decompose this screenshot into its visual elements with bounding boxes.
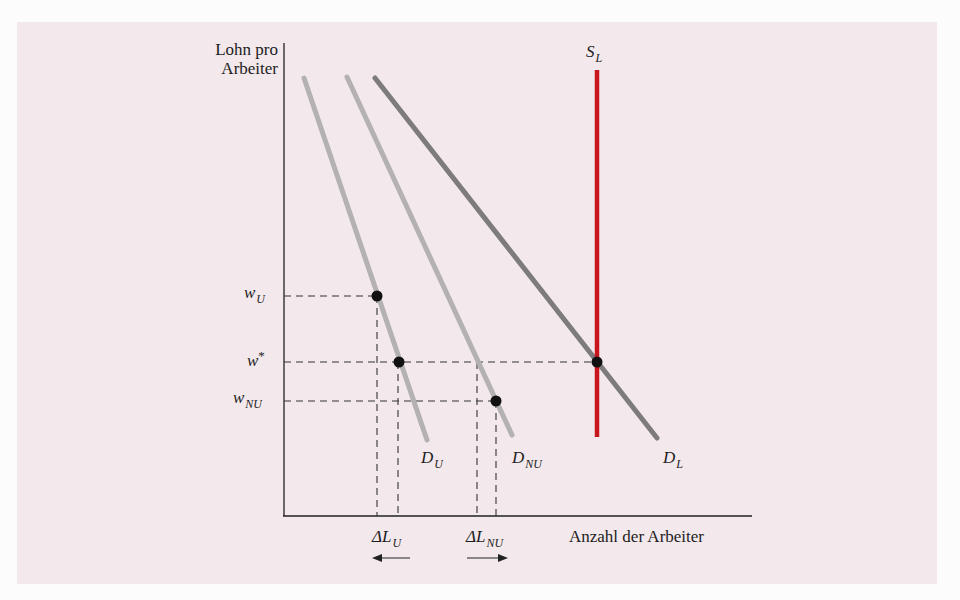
d-nu-label: DNU (512, 448, 542, 469)
d-l-label: DL (663, 448, 683, 469)
point-w-nu (491, 396, 502, 407)
dashed-guides (284, 296, 597, 516)
arrow-right-icon (467, 554, 508, 562)
arrow-left-icon (372, 554, 410, 562)
w-star-label: w* (247, 351, 265, 371)
w-nu-label: wNU (233, 388, 262, 409)
delta-l-u-label: ΔLU (372, 527, 401, 548)
supply-label: SL (586, 42, 602, 63)
point-w-u (372, 291, 383, 302)
demand-curve-d-l (375, 78, 657, 438)
point-w-star-union (394, 357, 405, 368)
demand-curve-d-u (304, 78, 427, 440)
x-axis-label: Anzahl der Arbeiter (569, 527, 704, 546)
delta-l-nu-label: ΔLNU (466, 527, 503, 548)
w-u-label: wU (244, 283, 265, 304)
y-axis-label: Lohn pro Arbeiter (168, 40, 278, 78)
point-equilibrium (592, 357, 603, 368)
labor-market-chart (0, 0, 960, 600)
d-u-label: DU (421, 448, 443, 469)
demand-curve-d-nu (347, 77, 512, 435)
